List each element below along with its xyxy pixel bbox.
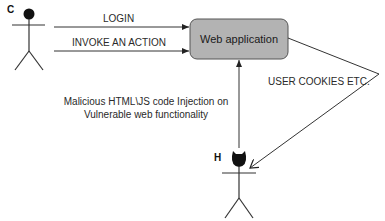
hacker-leg-right <box>239 198 253 218</box>
invoke-label: INVOKE AN ACTION <box>72 37 166 48</box>
hacker-leg-left <box>225 198 239 218</box>
hacker-head-icon <box>232 151 246 167</box>
actor-hacker <box>222 151 256 218</box>
injection-label-line1: Malicious HTML\JS code Injection on <box>56 95 236 108</box>
injection-label: Malicious HTML\JS code Injection on Vuln… <box>56 95 236 121</box>
client-leg-left <box>15 51 29 70</box>
cookies-label: USER COOKIES ETC. <box>268 76 370 87</box>
client-head <box>24 9 35 20</box>
injection-label-line2: Vulnerable web functionality <box>56 108 236 121</box>
login-label: LOGIN <box>103 13 134 24</box>
web-application-label: Web application <box>190 19 288 59</box>
hacker-label: H <box>214 152 221 163</box>
client-leg-right <box>29 51 43 70</box>
client-label: C <box>7 4 14 15</box>
actor-client <box>12 9 45 71</box>
